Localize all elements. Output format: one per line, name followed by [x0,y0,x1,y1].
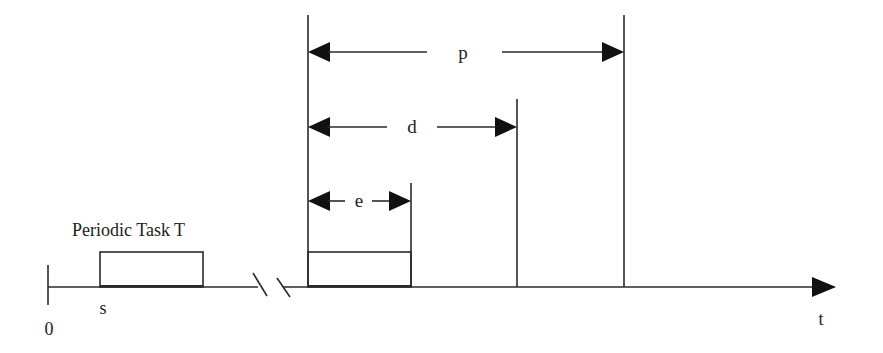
task-block-1 [100,252,203,287]
axis-arrow-icon [812,277,836,297]
origin-label: 0 [45,319,54,339]
execution-dimension: e [308,190,411,211]
break-slash-1 [253,273,267,296]
periodic-task-diagram: p d e Periodic Task T s 0 t [0,0,883,353]
deadline-label: d [407,116,417,137]
period-label: p [458,42,468,63]
task-block-2 [308,252,411,287]
start-label: s [99,298,106,318]
axis-break-marks [253,273,290,297]
d-right-arrowhead-icon [495,117,517,137]
deadline-dimension: d [308,116,517,137]
execution-label: e [355,190,363,211]
e-left-arrowhead-icon [308,191,330,211]
time-axis-label: t [818,309,823,329]
task-title: Periodic Task T [72,220,185,240]
d-left-arrowhead-icon [308,117,330,137]
e-right-arrowhead-icon [389,191,411,211]
period-dimension: p [308,42,624,63]
p-right-arrowhead-icon [602,42,624,62]
p-left-arrowhead-icon [308,42,330,62]
